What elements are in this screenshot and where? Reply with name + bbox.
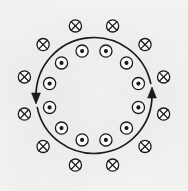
dot-7 <box>44 101 56 113</box>
dot-6 <box>44 78 56 90</box>
dot-6-center-dot <box>48 82 52 86</box>
dot-5-center-dot <box>59 61 63 65</box>
loop-group <box>36 38 152 154</box>
dot-8-center-dot <box>59 126 63 130</box>
cross-9 <box>69 159 81 171</box>
dot-4-center-dot <box>80 49 84 53</box>
arrow-right-upward <box>148 87 157 98</box>
dot-1-center-dot <box>136 82 140 86</box>
cross-6 <box>18 71 30 83</box>
cross-12 <box>158 108 170 120</box>
cross-10 <box>107 159 119 171</box>
cross-3 <box>107 20 119 32</box>
cross-4 <box>69 20 81 32</box>
arrow-left-downward <box>32 93 41 104</box>
dot-3-center-dot <box>104 49 108 53</box>
cross-symbol-layer <box>18 20 169 171</box>
cross-1 <box>158 71 170 83</box>
dot-4 <box>76 45 88 57</box>
cross-2 <box>139 39 151 51</box>
dot-2 <box>120 57 132 69</box>
cross-5 <box>37 39 49 51</box>
cross-11 <box>139 140 151 152</box>
dot-symbol-layer <box>44 45 145 146</box>
dot-10-center-dot <box>104 138 108 142</box>
dot-11 <box>120 122 132 134</box>
dot-12 <box>132 101 144 113</box>
dot-9-center-dot <box>80 138 84 142</box>
current-loop-diagram: Circular current loop with magnetic fiel… <box>0 0 188 191</box>
dot-11-center-dot <box>124 126 128 130</box>
dot-7-center-dot <box>48 105 52 109</box>
dot-8 <box>55 122 67 134</box>
figure-container: Circular current loop with magnetic fiel… <box>0 0 188 191</box>
dot-9 <box>76 134 88 146</box>
dot-12-center-dot <box>136 105 140 109</box>
dot-1 <box>132 78 144 90</box>
dot-5 <box>55 57 67 69</box>
dot-3 <box>100 45 112 57</box>
cross-7 <box>18 108 30 120</box>
dot-2-center-dot <box>124 61 128 65</box>
dot-10 <box>100 134 112 146</box>
current-loop-circle <box>36 38 152 154</box>
cross-8 <box>37 140 49 152</box>
